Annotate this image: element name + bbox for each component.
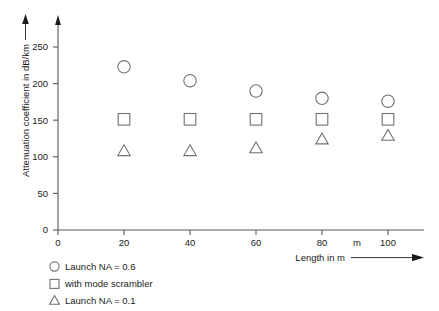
- data-point-triangle: [382, 130, 394, 141]
- data-point-triangle: [118, 145, 130, 156]
- data-point-square: [118, 114, 130, 126]
- x-tick-label-20: 20: [119, 237, 130, 248]
- data-point-triangle: [250, 142, 262, 153]
- x-axis-unit-label: m: [353, 237, 361, 248]
- x-tick-label-40: 40: [185, 237, 196, 248]
- y-axis-tick-labels: 0 50 100 150 200 250: [32, 41, 48, 235]
- y-axis-title: Attenuation coefficient in dB/km: [20, 44, 31, 177]
- data-point-circle: [184, 75, 196, 87]
- legend-label-launch-na-0-6: Launch NA = 0.6: [65, 261, 136, 272]
- y-axis-ticks: [53, 47, 58, 230]
- x-tick-label-80: 80: [317, 237, 328, 248]
- series-launch-na-0-6-markers: [118, 61, 394, 108]
- x-axis-tick-labels: 0 20 40 60 80 100: [55, 237, 396, 248]
- data-point-square: [382, 114, 394, 126]
- data-point-triangle: [184, 145, 196, 156]
- data-point-circle: [118, 61, 130, 73]
- legend-item-with-mode-scrambler[interactable]: with mode scrambler: [50, 278, 153, 289]
- y-tick-label-250: 250: [32, 41, 48, 52]
- x-tick-label-100: 100: [380, 237, 396, 248]
- x-axis-ticks: [58, 230, 388, 235]
- data-point-square: [184, 114, 196, 126]
- x-axis-title: Length in m: [295, 252, 345, 263]
- y-tick-label-100: 100: [32, 151, 48, 162]
- attenuation-scatter-figure: Attenuation coefficient in dB/km 0 50 10…: [0, 0, 439, 311]
- data-point-triangle: [316, 133, 328, 144]
- x-axis-title-group: Length in m: [295, 252, 424, 263]
- legend: Launch NA = 0.6 with mode scrambler Laun…: [50, 261, 153, 306]
- legend-item-launch-na-0-1[interactable]: Launch NA = 0.1: [50, 295, 136, 306]
- legend-circle-icon: [50, 262, 59, 271]
- x-tick-label-0: 0: [55, 237, 60, 248]
- legend-triangle-icon: [50, 296, 60, 305]
- y-axis-pointer-arrow: [22, 14, 29, 40]
- x-tick-label-60: 60: [251, 237, 262, 248]
- data-point-circle: [316, 92, 328, 104]
- data-point-circle: [250, 85, 262, 97]
- legend-item-launch-na-0-6[interactable]: Launch NA = 0.6: [50, 261, 136, 272]
- y-tick-label-0: 0: [43, 224, 48, 235]
- series-launch-na-0-1-markers: [118, 130, 394, 156]
- data-point-square: [316, 114, 328, 126]
- data-point-circle: [382, 95, 394, 107]
- series-with-mode-scrambler-markers: [118, 114, 394, 126]
- chart-canvas: Attenuation coefficient in dB/km 0 50 10…: [0, 0, 439, 311]
- legend-label-with-mode-scrambler: with mode scrambler: [64, 278, 153, 289]
- y-tick-label-150: 150: [32, 115, 48, 126]
- legend-square-icon: [50, 279, 59, 288]
- y-tick-label-50: 50: [37, 188, 48, 199]
- y-tick-label-200: 200: [32, 78, 48, 89]
- legend-label-launch-na-0-1: Launch NA = 0.1: [65, 295, 136, 306]
- data-point-square: [250, 114, 262, 126]
